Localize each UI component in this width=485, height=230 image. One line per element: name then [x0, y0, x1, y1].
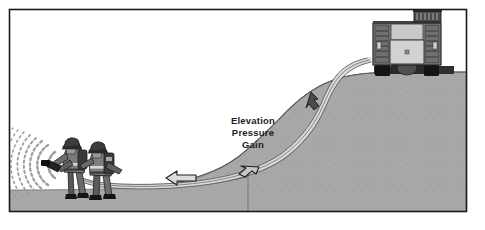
truck-light-right	[433, 42, 437, 49]
label-line-pressure: Pressure	[232, 127, 274, 138]
elevation-pressure-gain-figure: Elevation Pressure Gain	[0, 0, 485, 230]
firefighter1-facepiece	[66, 149, 76, 154]
truck-upper-panel	[391, 24, 423, 40]
firefighter1-boot-front	[77, 193, 89, 198]
label-line-gain: Gain	[242, 139, 264, 150]
firefighter2-scba-valve	[106, 157, 112, 161]
label-line-elevation: Elevation	[231, 115, 275, 126]
truck-light-left	[377, 42, 381, 49]
truck-door-handle	[405, 50, 409, 54]
firefighter1-leg-back	[68, 172, 74, 196]
firefighter1-boot-back	[65, 194, 77, 199]
firefighter2-boot-front	[103, 194, 116, 199]
diagram-canvas: Elevation Pressure Gain	[0, 0, 485, 230]
firefighter2-boot-back	[89, 195, 102, 200]
firefighter2-leg-back	[93, 175, 100, 197]
nozzle-tip	[41, 160, 50, 166]
firefighter2-facepiece	[92, 153, 102, 158]
